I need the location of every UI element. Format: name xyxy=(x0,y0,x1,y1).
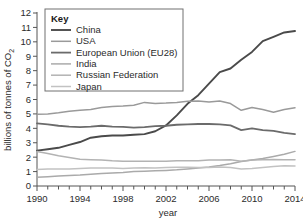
y-tick-label: 8 xyxy=(26,65,31,76)
legend-title: Key xyxy=(51,13,69,24)
y-tick-label: 3 xyxy=(26,137,31,148)
legend-item-label: India xyxy=(76,58,97,69)
y-tick-label: 9 xyxy=(26,51,31,62)
y-tick-label: 0 xyxy=(26,180,31,191)
y-tick-label: 7 xyxy=(26,79,31,90)
y-tick-label: 6 xyxy=(26,94,31,105)
legend-item-label: USA xyxy=(76,35,96,46)
y-tick-label: 1 xyxy=(26,166,31,177)
y-tick-label: 11 xyxy=(21,22,31,33)
x-axis-title: year xyxy=(159,207,177,218)
x-tick-label: 2014 xyxy=(284,193,303,204)
x-tick-label: 2002 xyxy=(155,193,176,204)
y-tick-label: 5 xyxy=(26,108,31,119)
y-axis-title: billions of tonnes of CO2 xyxy=(2,49,15,151)
y-tick-label: 10 xyxy=(20,36,31,47)
x-tick-label: 2010 xyxy=(241,193,262,204)
x-tick-label: 1990 xyxy=(26,193,47,204)
y-tick-label: 12 xyxy=(20,7,31,18)
y-tick-label: 4 xyxy=(26,123,31,134)
legend-item-label: European Union (EU28) xyxy=(76,47,177,58)
legend-item-label: China xyxy=(76,24,102,35)
x-tick-label: 1994 xyxy=(69,193,90,204)
legend-item-label: Russian Federation xyxy=(76,69,158,80)
co2-emissions-line-chart: 0123456789101112 19901994199820022006201… xyxy=(0,0,303,220)
x-tick-label: 1998 xyxy=(112,193,133,204)
legend-item-label: Japan xyxy=(76,81,102,92)
y-tick-label: 2 xyxy=(26,152,31,163)
chart-canvas: 0123456789101112 19901994199820022006201… xyxy=(0,0,303,220)
x-tick-label: 2006 xyxy=(198,193,219,204)
chart-legend: KeyChinaUSAEuropean Union (EU28)IndiaRus… xyxy=(45,9,183,92)
